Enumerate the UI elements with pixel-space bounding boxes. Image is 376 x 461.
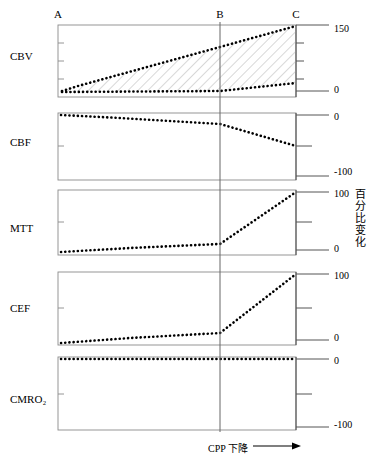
panel-cbv bbox=[58, 25, 329, 97]
panel-cbf bbox=[58, 113, 329, 180]
panel-cmro2 bbox=[58, 357, 329, 430]
panel-mtt bbox=[58, 190, 329, 255]
panel-cef bbox=[58, 272, 329, 345]
x-axis-arrow bbox=[253, 443, 301, 450]
plot-svg bbox=[0, 0, 376, 461]
cerebral-autoregulation-figure: A B C CBV CBF MTT CEF CMRO₂ 150 0 0 -100… bbox=[0, 0, 376, 461]
